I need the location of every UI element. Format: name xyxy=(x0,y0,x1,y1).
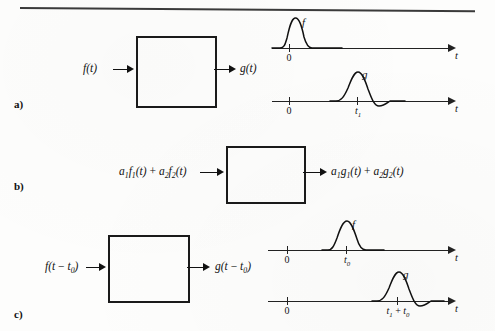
tick-c-g-zero xyxy=(287,297,288,305)
input-arrow-head-a xyxy=(127,65,134,73)
tick-label-c-g-zero: 0 xyxy=(277,305,297,316)
input-arrow-head-b xyxy=(217,168,224,176)
input-arrow-line-b xyxy=(200,172,218,173)
output-label-a: g(t) xyxy=(240,62,257,74)
tick-c-f-zero xyxy=(287,246,288,254)
output-arrow-head-b xyxy=(320,168,327,176)
tick-label-c-f-zero: 0 xyxy=(277,254,297,265)
output-label-c: g(t − t0) xyxy=(215,260,251,275)
input-label-a: f(t) xyxy=(83,62,97,74)
panel-letter-b: b) xyxy=(14,180,24,192)
curve-label-a-g: g xyxy=(362,68,368,80)
curve-label-c-f: f xyxy=(352,218,355,230)
output-arrow-head-a xyxy=(229,65,236,73)
output-arrow-line-a xyxy=(214,69,230,70)
output-arrow-line-b xyxy=(303,172,321,173)
input-label-b: a1f1(t) + a2f2(t) xyxy=(119,165,187,180)
panel-letter-a: a) xyxy=(14,98,23,110)
axis-var-a-f: t xyxy=(455,50,458,61)
tick-a-g-zero xyxy=(289,97,290,105)
axis-var-c-g: t xyxy=(455,303,458,314)
input-arrow-line-a xyxy=(113,69,128,70)
curve-label-a-f: f xyxy=(302,16,305,28)
axis-var-a-g: t xyxy=(455,103,458,114)
system-block-c xyxy=(108,235,190,303)
input-arrow-line-c xyxy=(86,267,100,268)
system-block-a xyxy=(136,36,217,108)
axis-var-c-f: t xyxy=(455,252,458,263)
tick-label-a-g-t1: t1 xyxy=(348,105,368,118)
tick-label-a-g-zero: 0 xyxy=(279,105,299,116)
input-arrow-head-c xyxy=(99,263,106,271)
output-arrow-line-c xyxy=(187,267,204,268)
output-arrow-head-c xyxy=(203,263,210,271)
tick-label-a-f-zero: 0 xyxy=(279,52,299,63)
input-label-c: f(t − t0) xyxy=(45,260,78,275)
panel-letter-c: c) xyxy=(14,308,23,320)
tick-label-c-f-t0: t0 xyxy=(337,254,357,267)
curve-label-c-g: g xyxy=(403,268,409,280)
output-label-b: a1g1(t) + a2g2(t) xyxy=(331,165,404,180)
system-block-b xyxy=(226,146,306,204)
tick-label-c-g-t1t0: t1 + t0 xyxy=(374,305,422,318)
top-horizontal-rule xyxy=(20,7,475,12)
waveform-a-f xyxy=(272,16,342,50)
